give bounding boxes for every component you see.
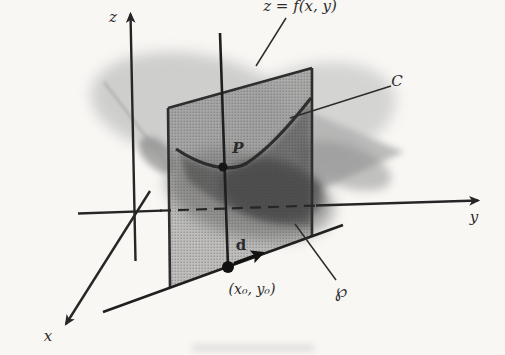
plane-leader (295, 224, 336, 280)
direction-vector-label: d (236, 236, 247, 254)
scan-smudge (192, 344, 314, 352)
point-p-label: P (231, 139, 244, 157)
surface-equation-leader (256, 18, 286, 66)
base-point-dot (222, 261, 234, 273)
y-axis-label: y (469, 208, 479, 226)
base-point-label: (x₀, y₀) (229, 281, 276, 297)
x-axis-label: x (44, 327, 53, 345)
diagram-svg: z = f(x, y) z y x C P d (x₀, y₀) ℘ (0, 0, 505, 355)
curve-c-label: C (391, 72, 403, 90)
plane-label: ℘ (335, 280, 348, 301)
surface-equation-label: z = f(x, y) (262, 0, 337, 15)
point-p-dot (218, 162, 227, 171)
z-axis-label: z (108, 8, 117, 26)
y-axis (316, 201, 478, 206)
x-axis (66, 191, 150, 324)
y-axis-left-segment (78, 211, 162, 214)
figure-canvas: z = f(x, y) z y x C P d (x₀, y₀) ℘ (0, 0, 505, 355)
